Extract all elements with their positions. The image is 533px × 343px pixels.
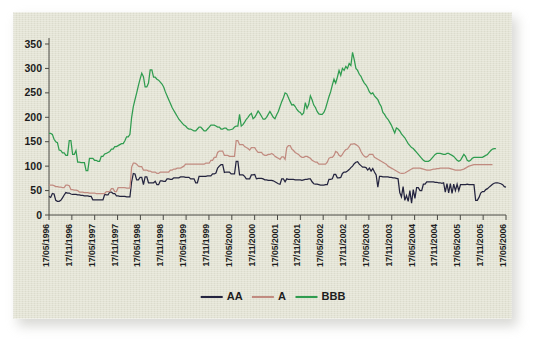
series-line-aa (49, 161, 506, 203)
x-tick-label: 17/11/2001 (292, 224, 302, 267)
x-tick-label: 17/05/2002 (315, 224, 325, 267)
chart-panel: 050100150200250300350 17/05/199617/11/19… (13, 12, 512, 319)
x-tick-label: 17/05/2004 (407, 224, 417, 267)
legend-label-a: A (278, 290, 286, 302)
x-tick-label: 17/05/1997 (87, 224, 97, 267)
line-chart: 050100150200250300350 17/05/199617/11/19… (13, 12, 512, 319)
x-tick-label: 17/05/1996 (41, 224, 51, 267)
x-tick-label: 17/05/2001 (270, 224, 280, 267)
x-tick-label: 17/11/2003 (384, 224, 394, 267)
x-tick-label: 17/11/1996 (64, 224, 74, 267)
legend-label-bbb: BBB (322, 290, 346, 302)
x-tick-label: 17/05/2006 (498, 224, 508, 267)
series-line-bbb (49, 52, 496, 170)
y-tick-label: 300 (24, 62, 42, 74)
x-tick-label: 17/05/1999 (178, 224, 188, 267)
y-tick-label: 250 (24, 86, 42, 98)
y-tick-label: 50 (30, 184, 42, 196)
chart-page: 050100150200250300350 17/05/199617/11/19… (0, 0, 533, 343)
series-line-a (49, 141, 493, 194)
x-axis: 17/05/199617/11/199617/05/199717/11/1997… (41, 215, 508, 267)
legend-item-bbb[interactable]: BBB (296, 290, 346, 302)
x-tick-label: 17/11/1998 (155, 224, 165, 267)
legend-label-aa: AA (227, 290, 243, 302)
y-axis: 050100150200250300350 (24, 38, 49, 221)
x-tick-label: 17/11/1999 (201, 224, 211, 267)
x-tick-label: 17/11/2000 (247, 224, 257, 267)
y-tick-label: 150 (24, 135, 42, 147)
x-tick-label: 17/11/1997 (110, 224, 120, 267)
x-tick-label: 17/11/2002 (338, 224, 348, 267)
series-lines (49, 52, 506, 203)
chart-legend: AAABBB (201, 290, 346, 302)
x-tick-label: 17/05/1998 (132, 224, 142, 267)
x-tick-label: 17/11/2004 (429, 224, 439, 267)
x-tick-label: 17/11/2005 (475, 224, 485, 267)
y-tick-label: 200 (24, 111, 42, 123)
x-tick-label: 17/05/2005 (452, 224, 462, 267)
x-tick-label: 17/05/2003 (361, 224, 371, 267)
y-tick-label: 350 (24, 38, 42, 50)
x-tick-label: 17/05/2000 (224, 224, 234, 267)
y-tick-label: 0 (36, 209, 42, 221)
legend-item-a[interactable]: A (252, 290, 286, 302)
y-tick-label: 100 (24, 160, 42, 172)
legend-item-aa[interactable]: AA (201, 290, 243, 302)
